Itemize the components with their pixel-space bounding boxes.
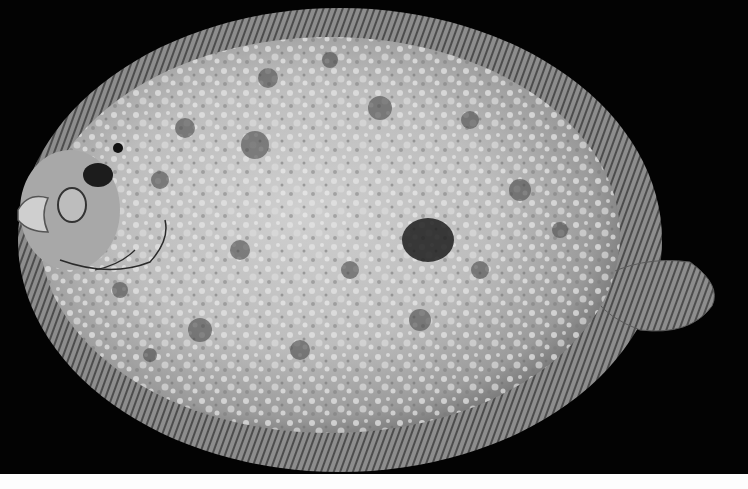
eye-upper [83, 163, 113, 187]
body-speckle-texture [40, 37, 620, 433]
photograph [0, 0, 748, 474]
flatfish-illustration [0, 0, 748, 474]
eye-lower [58, 188, 86, 222]
central-dark-patch [402, 218, 454, 262]
bottom-border-strip [0, 474, 748, 489]
